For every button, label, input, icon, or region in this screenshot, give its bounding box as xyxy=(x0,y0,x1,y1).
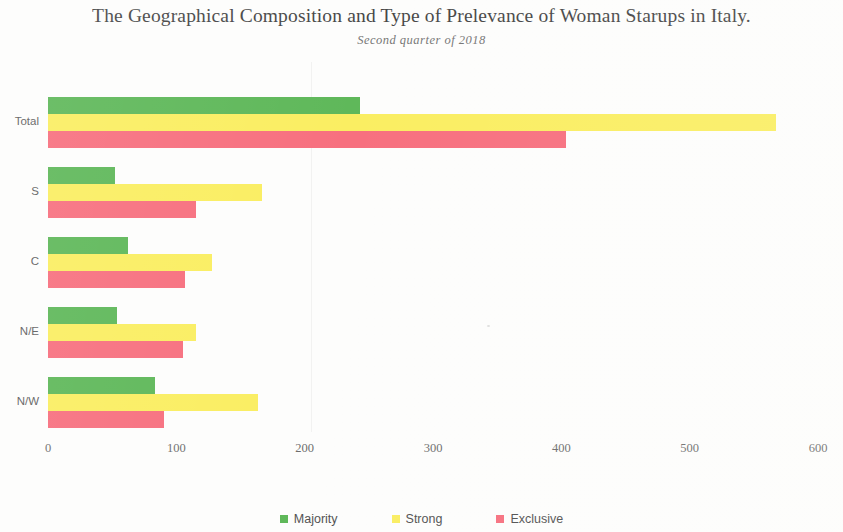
bar-strong-c xyxy=(48,254,212,271)
legend-label: Exclusive xyxy=(510,512,563,526)
legend-swatch-icon xyxy=(280,515,288,523)
bar-group: S xyxy=(48,167,818,218)
bar-strong-n-w xyxy=(48,394,258,411)
bar-majority-total xyxy=(48,97,360,114)
bar-exclusive-c xyxy=(48,271,185,288)
y-axis-label: N/E xyxy=(20,325,48,337)
x-tick-label: 0 xyxy=(45,441,51,456)
legend-swatch-icon xyxy=(392,515,400,523)
x-axis: 0100200300400500600 xyxy=(48,441,818,463)
x-tick-label: 100 xyxy=(167,441,186,456)
bar-group: N/E xyxy=(48,307,818,358)
x-tick-label: 500 xyxy=(680,441,699,456)
bar-exclusive-n-e xyxy=(48,341,183,358)
bar-majority-n-e xyxy=(48,307,117,324)
legend-item-majority[interactable]: Majority xyxy=(280,512,338,526)
y-axis-label: Total xyxy=(15,115,48,127)
bar-exclusive-total xyxy=(48,131,566,148)
bar-majority-c xyxy=(48,237,128,254)
bar-exclusive-s xyxy=(48,201,196,218)
chart-page: The Geographical Composition and Type of… xyxy=(0,0,843,532)
bar-majority-n-w xyxy=(48,377,155,394)
legend-label: Strong xyxy=(406,512,443,526)
bar-group: C xyxy=(48,237,818,288)
page-title: The Geographical Composition and Type of… xyxy=(0,4,843,28)
y-axis-label: N/W xyxy=(17,395,48,407)
legend-swatch-icon xyxy=(496,515,504,523)
legend-label: Majority xyxy=(294,512,338,526)
plot-area: TotalSCN/EN/W xyxy=(48,88,818,438)
bar-strong-s xyxy=(48,184,262,201)
x-tick-label: 300 xyxy=(424,441,443,456)
legend-item-strong[interactable]: Strong xyxy=(392,512,443,526)
x-tick-label: 400 xyxy=(552,441,571,456)
bar-majority-s xyxy=(48,167,115,184)
bar-exclusive-n-w xyxy=(48,411,164,428)
bar-strong-total xyxy=(48,114,776,131)
bar-strong-n-e xyxy=(48,324,196,341)
bar-group: N/W xyxy=(48,377,818,428)
bar-group: Total xyxy=(48,97,818,148)
y-axis-label: S xyxy=(31,185,48,197)
title-block: The Geographical Composition and Type of… xyxy=(0,4,843,48)
x-tick-label: 600 xyxy=(809,441,828,456)
chart-subtitle: Second quarter of 2018 xyxy=(0,33,843,48)
legend-item-exclusive[interactable]: Exclusive xyxy=(496,512,563,526)
x-tick-label: 200 xyxy=(295,441,314,456)
chart-legend: MajorityStrongExclusive xyxy=(0,512,843,526)
y-axis-label: C xyxy=(31,255,48,267)
